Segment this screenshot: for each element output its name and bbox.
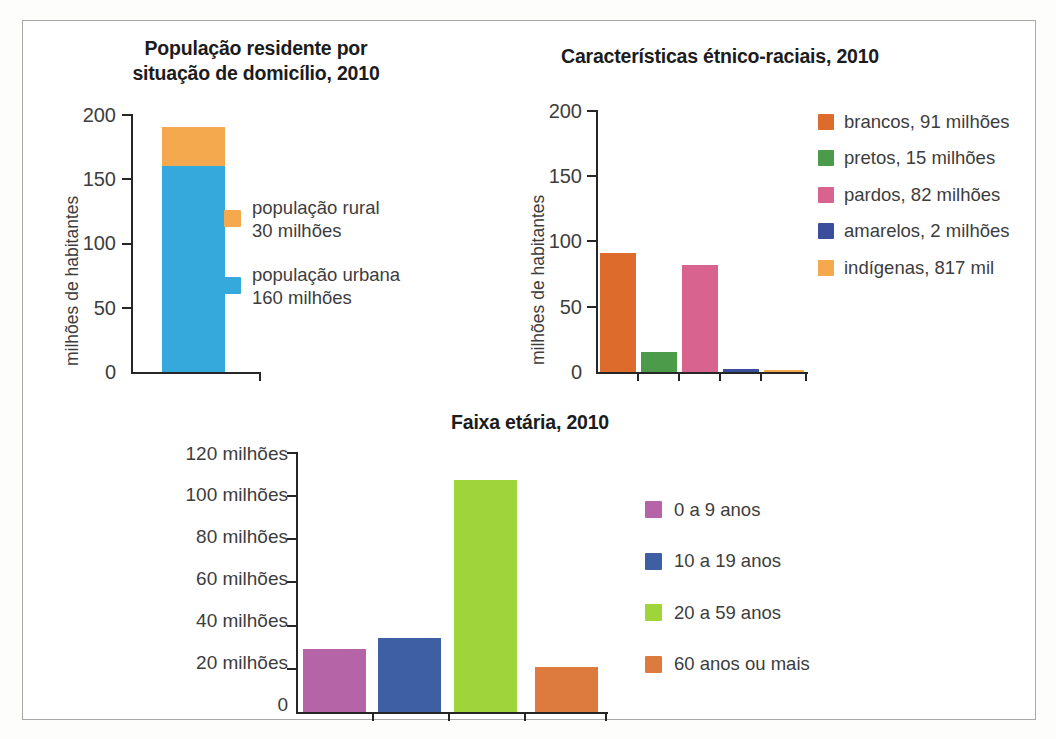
chart2-bar-indigenas bbox=[764, 370, 804, 372]
chart1-tick-200 bbox=[122, 114, 131, 116]
chart3-ytick-20: 20 milhões bbox=[120, 652, 288, 674]
legend-item: 0 a 9 anos bbox=[645, 498, 810, 521]
chart2-y-axis-label: milhões de habitantes bbox=[528, 195, 549, 365]
legend-swatch-pretos-icon bbox=[818, 150, 834, 166]
chart2-bar-amarelos bbox=[723, 369, 759, 372]
chart2-xtick-2 bbox=[678, 372, 680, 381]
chart1-ytick-200: 200 bbox=[68, 104, 116, 127]
legend-item: população rural 30 milhões bbox=[224, 196, 400, 243]
chart3-xtick-4 bbox=[605, 712, 607, 721]
legend-swatch-60-anos-ou-mais-icon bbox=[645, 656, 662, 673]
chart3-bar-0-a-9-anos bbox=[303, 649, 366, 712]
legend-item: amarelos, 2 milhões bbox=[818, 219, 1010, 242]
chart3-tick-60 bbox=[287, 581, 296, 583]
legend-swatch-20-a-59-anos-icon bbox=[645, 604, 662, 621]
chart2-ytick-50: 50 bbox=[534, 296, 582, 319]
chart3-bar-60-anos-ou-mais bbox=[535, 667, 598, 713]
chart1-tick-100 bbox=[122, 243, 131, 245]
chart3-xtick-3 bbox=[524, 712, 526, 721]
chart3-bar-20-a-59-anos bbox=[454, 480, 517, 712]
chart1-ytick-150: 150 bbox=[68, 168, 116, 191]
legend-item: 60 anos ou mais bbox=[645, 652, 810, 675]
chart2-xtick-3 bbox=[719, 372, 721, 381]
chart2-xtick-5 bbox=[805, 372, 807, 381]
legend-item: pardos, 82 milhões bbox=[818, 183, 1010, 206]
chart1-xtick-right bbox=[259, 372, 261, 381]
chart2-x-axis bbox=[596, 372, 808, 374]
legend-swatch-amarelos-icon bbox=[818, 223, 834, 239]
legend-swatch-populacao-urbana-icon bbox=[224, 277, 241, 294]
legend-item: brancos, 91 milhões bbox=[818, 110, 1010, 133]
chart3-xtick-1 bbox=[372, 712, 374, 721]
chart2-ytick-200: 200 bbox=[534, 100, 582, 123]
chart3-ytick-100: 100 milhões bbox=[120, 484, 288, 506]
chart1-y-axis-label: milhões de habitantes bbox=[62, 196, 83, 366]
legend-label-populacao-urbana: população urbana 160 milhões bbox=[252, 263, 400, 310]
chart2-title: Características étnico-raciais, 2010 bbox=[520, 44, 920, 69]
legend-swatch-populacao-rural-icon bbox=[224, 210, 241, 227]
legend-swatch-indigenas-icon bbox=[818, 260, 834, 276]
chart2-ytick-0: 0 bbox=[534, 361, 582, 384]
chart1-tick-50 bbox=[122, 307, 131, 309]
chart3-bar-10-a-19-anos bbox=[378, 638, 441, 712]
chart2-xtick-1 bbox=[637, 372, 639, 381]
chart2-tick-200 bbox=[587, 110, 596, 112]
figure-page: População residente por situação de domi… bbox=[0, 0, 1056, 739]
legend-label-0-a-9-anos: 0 a 9 anos bbox=[674, 498, 760, 521]
chart3-plot-area bbox=[296, 452, 606, 712]
chart3-ytick-0: 0 bbox=[120, 694, 288, 716]
chart2-plot-area bbox=[596, 110, 806, 372]
legend-label-populacao-rural: população rural 30 milhões bbox=[252, 196, 380, 243]
legend-label-brancos: brancos, 91 milhões bbox=[844, 110, 1010, 133]
legend-item: 20 a 59 anos bbox=[645, 601, 810, 624]
chart1-ytick-50: 50 bbox=[68, 297, 116, 320]
chart1-title: População residente por situação de domi… bbox=[96, 36, 416, 86]
chart2-tick-100 bbox=[587, 240, 596, 242]
chart1-x-axis bbox=[131, 372, 261, 374]
chart1-legend: população rural 30 milhões população urb… bbox=[224, 196, 400, 330]
chart3-xtick-2 bbox=[448, 712, 450, 721]
legend-swatch-10-a-19-anos-icon bbox=[645, 553, 662, 570]
legend-label-amarelos: amarelos, 2 milhões bbox=[844, 219, 1010, 242]
legend-item: 10 a 19 anos bbox=[645, 549, 810, 572]
chart2-legend: brancos, 91 milhões pretos, 15 milhões p… bbox=[818, 110, 1010, 292]
chart1-bar-populacao-rural bbox=[162, 127, 225, 166]
legend-item: indígenas, 817 mil bbox=[818, 256, 1010, 279]
legend-swatch-pardos-icon bbox=[818, 187, 834, 203]
chart3-tick-20 bbox=[287, 668, 296, 670]
chart3-tick-80 bbox=[287, 538, 296, 540]
legend-item: pretos, 15 milhões bbox=[818, 146, 1010, 169]
chart1-bar-populacao-urbana bbox=[162, 166, 225, 372]
chart2-bar-pretos bbox=[641, 352, 677, 372]
chart3-ytick-80: 80 milhões bbox=[120, 526, 288, 548]
legend-item: população urbana 160 milhões bbox=[224, 263, 400, 310]
chart2-ytick-100: 100 bbox=[534, 230, 582, 253]
legend-label-20-a-59-anos: 20 a 59 anos bbox=[674, 601, 781, 624]
chart3-tick-40 bbox=[287, 625, 296, 627]
chart2-xtick-4 bbox=[760, 372, 762, 381]
legend-label-pardos: pardos, 82 milhões bbox=[844, 183, 1000, 206]
chart3-legend: 0 a 9 anos 10 a 19 anos 20 a 59 anos 60 … bbox=[645, 498, 810, 704]
chart2-tick-50 bbox=[587, 306, 596, 308]
chart3-x-axis bbox=[296, 712, 608, 714]
chart3-tick-100 bbox=[287, 495, 296, 497]
legend-swatch-brancos-icon bbox=[818, 114, 834, 130]
chart3-ytick-120: 120 milhões bbox=[120, 443, 288, 465]
chart3-ytick-40: 40 milhões bbox=[120, 610, 288, 632]
legend-label-pretos: pretos, 15 milhões bbox=[844, 146, 995, 169]
legend-label-60-anos-ou-mais: 60 anos ou mais bbox=[674, 652, 810, 675]
legend-swatch-0-a-9-anos-icon bbox=[645, 501, 662, 518]
chart3-tick-120 bbox=[287, 452, 296, 454]
chart3-title: Faixa etária, 2010 bbox=[385, 410, 675, 435]
legend-label-indigenas: indígenas, 817 mil bbox=[844, 256, 994, 279]
chart3-ytick-60: 60 milhões bbox=[120, 568, 288, 590]
chart1-ytick-0: 0 bbox=[68, 361, 116, 384]
legend-label-10-a-19-anos: 10 a 19 anos bbox=[674, 549, 781, 572]
chart2-tick-150 bbox=[587, 175, 596, 177]
chart2-ytick-150: 150 bbox=[534, 165, 582, 188]
chart1-ytick-100: 100 bbox=[68, 232, 116, 255]
chart1-tick-150 bbox=[122, 178, 131, 180]
chart2-bar-pardos bbox=[682, 265, 718, 372]
chart2-bar-brancos bbox=[600, 253, 636, 372]
